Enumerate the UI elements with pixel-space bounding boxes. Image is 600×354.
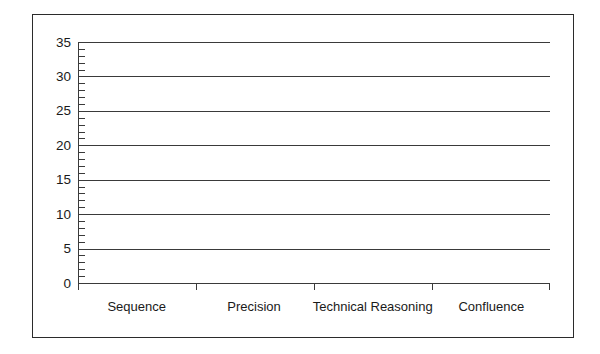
y-tick-label: 35: [38, 36, 71, 50]
y-tick-label: 10: [38, 208, 71, 222]
x-tick-label-sequence: Sequence: [78, 299, 195, 319]
gridline-20: [78, 145, 550, 146]
x-axis-category-labels: Sequence Precision Technical Reasoning C…: [78, 299, 550, 319]
y-minor-tick: [78, 187, 85, 188]
y-axis-tick-labels: 35 30 25 20 15 10 5 0: [38, 0, 71, 354]
y-minor-tick: [78, 242, 85, 243]
y-minor-tick: [78, 97, 85, 98]
gridline-25: [78, 111, 550, 112]
y-tick-label: 15: [38, 173, 71, 187]
y-minor-tick: [78, 255, 85, 256]
y-minor-tick: [78, 166, 85, 167]
y-minor-tick: [78, 104, 85, 105]
y-minor-tick: [78, 235, 85, 236]
chart-figure: 35 30 25 20 15 10 5 0 Sequence Precision…: [0, 0, 600, 354]
y-minor-tick: [78, 269, 85, 270]
y-tick-label: 20: [38, 139, 71, 153]
y-tick-label: 5: [38, 242, 71, 256]
y-minor-tick: [78, 228, 85, 229]
y-tick-label: 30: [38, 70, 71, 84]
y-axis-line: [78, 42, 79, 283]
y-minor-tick: [78, 262, 85, 263]
y-minor-tick: [78, 90, 85, 91]
y-minor-tick: [78, 152, 85, 153]
y-minor-tick: [78, 56, 85, 57]
gridline-10: [78, 214, 550, 215]
y-minor-tick: [78, 63, 85, 64]
x-axis-tick: [432, 283, 433, 290]
y-minor-tick: [78, 276, 85, 277]
y-minor-tick: [78, 118, 85, 119]
gridline-30: [78, 76, 550, 77]
x-axis-tick: [549, 283, 550, 290]
y-tick-label: 25: [38, 104, 71, 118]
gridline-5: [78, 249, 550, 250]
y-minor-tick: [78, 49, 85, 50]
x-tick-label-precision: Precision: [195, 299, 312, 319]
y-minor-tick: [78, 125, 85, 126]
y-minor-tick: [78, 200, 85, 201]
y-minor-tick: [78, 221, 85, 222]
x-axis-tick: [78, 283, 79, 290]
y-minor-tick: [78, 207, 85, 208]
plot-area: [78, 42, 550, 283]
y-tick-label: 0: [38, 277, 71, 291]
gridline-35: [78, 42, 550, 43]
y-minor-tick: [78, 70, 85, 71]
y-minor-tick: [78, 159, 85, 160]
x-tick-label-confluence: Confluence: [433, 299, 550, 319]
x-tick-label-technical-reasoning: Technical Reasoning: [313, 299, 433, 319]
y-minor-tick: [78, 193, 85, 194]
y-minor-tick: [78, 173, 85, 174]
y-minor-tick: [78, 132, 85, 133]
y-minor-tick: [78, 83, 85, 84]
y-minor-tick: [78, 138, 85, 139]
x-axis-tick: [196, 283, 197, 290]
gridline-15: [78, 180, 550, 181]
x-axis-tick: [314, 283, 315, 290]
